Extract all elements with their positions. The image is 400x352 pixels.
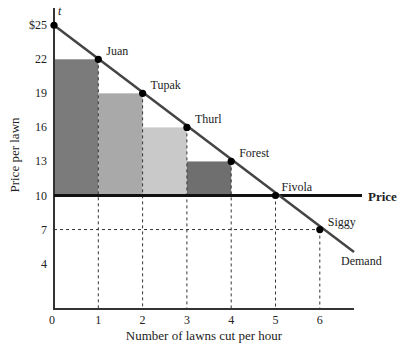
y-tick-label: 22 [35,52,47,66]
demand-point [50,22,57,29]
x-axis-label: Number of lawns cut per hour [126,328,283,343]
y-tick-label: 7 [41,223,47,237]
y-tick-label: 4 [41,257,47,271]
y-tick-label: 19 [35,86,47,100]
demand-point [316,226,323,233]
y-tick-labels: $25221916131074 [29,18,47,270]
surplus-bars [54,59,231,195]
point-label: Siggy [328,215,356,229]
surplus-bar [143,127,187,195]
point-label: Forest [239,146,270,160]
demand-point [183,124,190,131]
x-tick-label: 4 [228,313,234,327]
surplus-bar [187,161,231,195]
x-tick-label: 1 [95,313,101,327]
price-label: Price [368,189,397,204]
y-tick-label: $25 [29,18,47,32]
point-label: t [58,4,62,18]
x-tick-label: 6 [317,313,323,327]
y-tick-label: 13 [35,154,47,168]
point-label: Fivola [282,180,313,194]
point-label: Thurl [195,112,222,126]
demand-point [228,158,235,165]
x-tick-label: 0 [49,313,55,327]
x-tick-label: 2 [140,313,146,327]
surplus-bar [98,93,142,195]
demand-label: Demand [341,254,382,268]
x-tick-label: 5 [273,313,279,327]
x-tick-labels: 0123456 [49,313,323,327]
y-axis-label: Price per lawn [7,117,22,193]
point-label: Juan [106,44,128,58]
x-tick-label: 3 [184,313,190,327]
point-label: Tupak [151,78,181,92]
demand-point [272,192,279,199]
y-tick-label: 10 [35,189,47,203]
demand-point [139,90,146,97]
surplus-bar [54,59,98,195]
y-tick-label: 16 [35,120,47,134]
consumer-surplus-chart: $25221916131074 0123456 Price tJuanTupak… [0,0,400,352]
demand-point [95,56,102,63]
